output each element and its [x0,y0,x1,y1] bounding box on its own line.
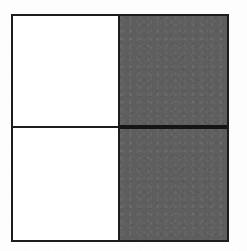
figure-canvas [0,0,247,251]
horizontal-divider-line [13,126,227,128]
quadrant-square-figure [11,14,229,242]
quadrant-top-left [13,16,120,128]
quadrant-bottom-left [13,128,120,240]
quadrant-bottom-right [120,128,227,240]
quadrant-top-right [120,16,227,128]
